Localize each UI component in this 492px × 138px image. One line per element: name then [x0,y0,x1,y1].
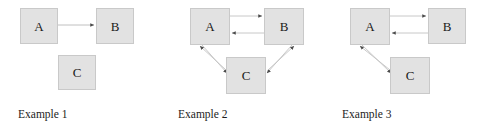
node-b[interactable]: B [428,8,466,44]
node-b-label: B [111,20,120,33]
example-caption-1: Example 1 [0,108,182,120]
node-c-label: C [406,69,415,82]
node-a-label: A [34,20,43,33]
node-a-label: A [205,20,214,33]
example-caption-3: Example 3 [328,108,492,120]
node-c-label: C [73,66,82,79]
node-c[interactable]: C [58,55,96,90]
edge-C-to-A [200,46,226,70]
node-b[interactable]: B [96,8,134,44]
node-a-label: A [365,20,374,33]
node-b[interactable]: B [264,8,304,45]
node-a[interactable]: A [20,8,58,44]
node-c[interactable]: C [390,57,430,94]
node-a[interactable]: A [190,8,230,45]
node-b-label: B [280,20,289,33]
graph-area-3: A B C [328,0,492,100]
node-c-label: C [242,69,251,82]
edge-C-to-A [360,46,390,70]
graph-area-1: A B C [0,0,164,100]
example-panel-1: A B C Example 1 [0,0,164,138]
edge-C-to-B [268,46,294,70]
example-caption-2: Example 2 [164,108,342,120]
node-b-label: B [443,20,452,33]
node-a[interactable]: A [350,8,390,45]
graph-area-2: A B C [164,0,328,100]
example-panel-2: A B C Example 2 [164,0,328,138]
node-c[interactable]: C [226,57,266,94]
examples-figure: A B C Example 1 [0,0,492,138]
example-panel-3: A B C Example 3 [328,0,492,138]
